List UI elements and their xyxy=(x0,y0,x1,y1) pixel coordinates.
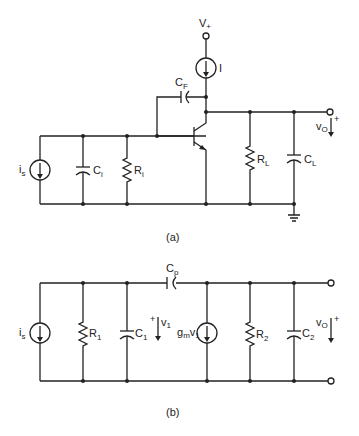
label-cf: CF xyxy=(175,76,188,91)
label-v1: v1 xyxy=(161,316,172,330)
label-gmv1: gmv1 xyxy=(177,326,200,340)
current-source-is-b xyxy=(30,283,50,381)
circuit-b: is R1 C1 + v1 Cp gmv1 xyxy=(19,262,339,418)
label-ri: Ri xyxy=(134,164,144,179)
circuit-diagram: is Ci Ri CF V+ xyxy=(0,0,359,436)
resistor-r2 xyxy=(246,283,254,381)
v1-plus: + xyxy=(150,314,155,324)
vo-plus-a: + xyxy=(334,114,339,124)
label-r1: R1 xyxy=(89,327,102,342)
label-cl: CL xyxy=(304,153,317,168)
label-is: is xyxy=(19,163,25,178)
current-source-is xyxy=(30,136,50,204)
resistor-ri xyxy=(123,136,131,204)
output-terminal-b-top xyxy=(328,280,334,286)
label-i: I xyxy=(219,62,222,74)
label-vo-b: vO xyxy=(316,316,328,330)
current-source-i xyxy=(196,39,216,112)
label-cp: Cp xyxy=(166,262,179,277)
label-r2: R2 xyxy=(256,328,269,343)
supply-terminal xyxy=(203,33,209,39)
label-is-b: is xyxy=(19,326,25,341)
vo-plus-b: + xyxy=(334,314,339,324)
label-c2: C2 xyxy=(302,327,315,342)
capacitor-c1 xyxy=(120,283,134,381)
transistor-npn xyxy=(157,112,206,204)
capacitor-cl xyxy=(287,112,301,215)
ground-symbol xyxy=(288,215,300,221)
label-vo-a: vO xyxy=(316,120,328,134)
circuit-a: is Ci Ri CF V+ xyxy=(19,17,339,243)
capacitor-cp xyxy=(167,277,176,289)
caption-a: (a) xyxy=(166,231,179,243)
output-terminal-a xyxy=(327,109,333,115)
label-rl: RL xyxy=(257,153,270,168)
resistor-r1 xyxy=(79,283,87,381)
output-terminal-b-bottom xyxy=(328,378,334,384)
resistor-rl xyxy=(246,112,254,204)
label-vplus: V+ xyxy=(199,17,211,31)
caption-b: (b) xyxy=(166,406,179,418)
capacitor-c2 xyxy=(287,283,301,381)
label-c1: C1 xyxy=(135,327,148,342)
current-source-gm xyxy=(197,283,217,381)
label-ci: Ci xyxy=(93,164,103,179)
capacitor-ci xyxy=(76,136,90,204)
